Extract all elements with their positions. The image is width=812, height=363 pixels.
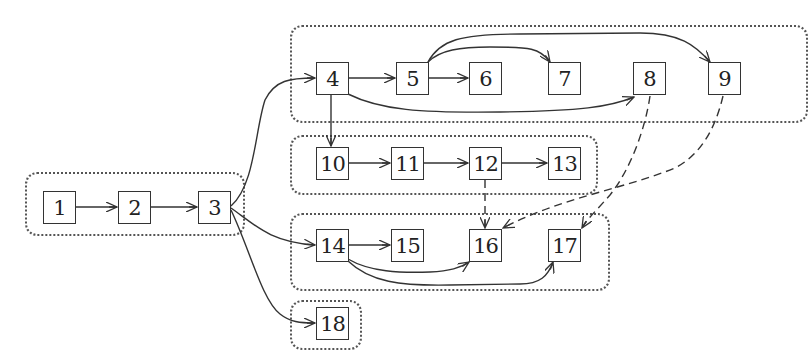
node-6: 6 xyxy=(469,62,502,95)
node-15: 15 xyxy=(391,229,424,262)
node-10: 10 xyxy=(316,147,349,180)
node-14: 14 xyxy=(316,229,349,262)
node-12: 12 xyxy=(469,147,502,180)
node-7: 7 xyxy=(548,62,581,95)
node-9: 9 xyxy=(708,62,741,95)
edge-8-17 xyxy=(582,96,650,228)
node-18: 18 xyxy=(316,307,349,340)
edge-3-18 xyxy=(231,210,315,323)
node-17: 17 xyxy=(548,229,581,262)
dependency-graph: 1 2 3 4 5 6 7 8 9 10 11 12 13 14 15 16 1… xyxy=(0,0,812,363)
edge-5-7 xyxy=(428,47,550,62)
edge-4-8 xyxy=(348,94,634,112)
node-8: 8 xyxy=(633,62,666,95)
node-1: 1 xyxy=(43,191,76,224)
node-3: 3 xyxy=(198,191,231,224)
node-5: 5 xyxy=(396,62,429,95)
edges-layer xyxy=(0,0,812,363)
edge-3-4 xyxy=(231,78,315,206)
node-11: 11 xyxy=(391,147,424,180)
node-4: 4 xyxy=(316,62,349,95)
edge-9-16 xyxy=(503,96,723,228)
node-13: 13 xyxy=(548,147,581,180)
node-16: 16 xyxy=(469,229,502,262)
node-2: 2 xyxy=(118,191,151,224)
edge-14-17 xyxy=(348,261,553,285)
